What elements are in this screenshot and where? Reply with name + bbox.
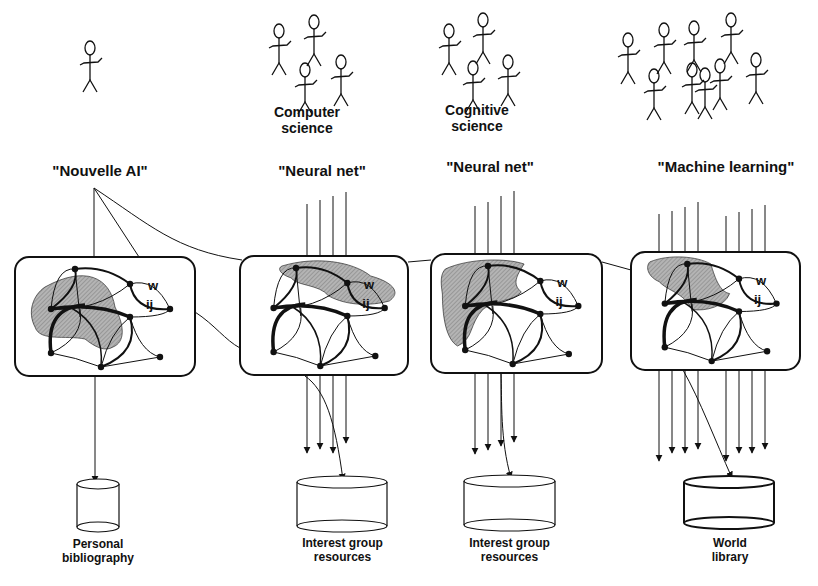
community-label-line1: Computer	[262, 104, 352, 120]
store-label-line1: World	[690, 536, 770, 550]
weight-label-w: w	[755, 273, 767, 288]
curved-arrow-to-store	[305, 376, 343, 480]
network-node	[344, 280, 350, 286]
figure-arms	[654, 40, 676, 47]
weight-label-ij: ij	[362, 296, 369, 311]
weight-label-w: w	[556, 275, 568, 290]
network-node	[462, 347, 468, 353]
store-label-interest-group-1: Interest group resources	[285, 536, 400, 564]
figure-head	[649, 69, 659, 83]
network-node	[317, 363, 323, 369]
figure-legs	[272, 63, 286, 75]
figure-arms	[269, 41, 291, 48]
figure-arms	[618, 50, 640, 57]
figure-head	[309, 15, 319, 29]
figure-arms	[295, 80, 317, 87]
network-node	[344, 313, 350, 319]
network-node	[537, 278, 543, 284]
network-node	[127, 281, 133, 287]
weight-label-w: w	[147, 278, 159, 293]
weight-label-w: w	[363, 277, 375, 292]
network-node	[566, 351, 572, 357]
network-node	[98, 364, 104, 370]
figure-head	[715, 59, 725, 73]
network-node	[709, 358, 715, 364]
figure-arms	[644, 86, 666, 93]
network-node	[167, 306, 173, 312]
network-node	[736, 308, 742, 314]
community-label-line2: science	[262, 120, 352, 136]
figure-legs	[621, 72, 635, 84]
network-node	[575, 303, 581, 309]
figure-head	[478, 13, 488, 27]
column-title-neural-net-cs: "Neural net"	[262, 162, 382, 179]
store-label-line2: resources	[452, 550, 567, 564]
cylinder-body	[297, 482, 387, 532]
figure-head	[468, 61, 478, 75]
network-node	[127, 314, 133, 320]
stick-figure-icon	[618, 33, 640, 84]
network-node	[485, 263, 491, 269]
cylinder-top	[464, 475, 555, 487]
curved-arrow-to-store	[683, 370, 732, 478]
store-label-line2: resources	[285, 550, 400, 564]
figure-head	[689, 21, 699, 35]
network-node	[270, 305, 276, 311]
column-title-neural-net-cogsci: "Neural net"	[430, 158, 550, 175]
cylinder-top	[77, 479, 119, 489]
figure-legs	[724, 52, 738, 64]
stick-figure-icon	[746, 53, 768, 104]
community-label-line2: science	[437, 118, 517, 134]
figure-head	[503, 55, 513, 69]
figure-head	[300, 63, 310, 77]
stick-figure-icon	[721, 13, 743, 64]
figure-arms	[304, 32, 326, 39]
network-node	[270, 349, 276, 355]
network-node	[662, 344, 668, 350]
network-node	[773, 300, 779, 306]
community-label-computer-science: Computer science	[262, 104, 352, 136]
figure-head	[444, 24, 454, 38]
network-node	[736, 276, 742, 282]
cylinder-top	[297, 476, 387, 488]
figure-legs	[698, 107, 712, 119]
column-title-machine-learning: "Machine learning"	[646, 158, 806, 175]
cylinder-body	[684, 482, 774, 529]
network-box-neural-net-cs: wij	[240, 256, 408, 375]
network-box-neural-net-cogsci: wij	[431, 254, 602, 373]
store-label-line1: Personal	[48, 537, 148, 551]
figure-legs	[647, 108, 661, 120]
network-node	[462, 303, 468, 309]
network-node	[684, 261, 690, 267]
network-node	[157, 354, 163, 360]
figure-legs	[713, 98, 727, 110]
stick-figure-icon	[644, 69, 666, 120]
network-node	[48, 350, 54, 356]
figure-legs	[307, 54, 321, 66]
stick-figure-icon	[439, 24, 461, 75]
figure-arms	[498, 72, 520, 79]
store-label-line1: Interest group	[285, 536, 400, 550]
stick-figure-icon	[654, 23, 676, 74]
stick-figure-icon	[695, 68, 717, 119]
link-box3-to-box4	[602, 262, 631, 270]
network-node	[510, 361, 516, 367]
weight-label-ij: ij	[146, 297, 153, 312]
network-node	[48, 306, 54, 312]
store-label-line2: bibliography	[48, 551, 148, 565]
cylinder-body	[464, 481, 555, 531]
database-cylinder-icon	[684, 476, 774, 529]
knowledge-network-diagram: wijwijwijwij	[0, 0, 818, 586]
store-label-world-library: World library	[690, 536, 770, 564]
link-box2-to-box3	[408, 260, 431, 262]
curved-arrow-to-store	[501, 373, 511, 478]
figure-arms	[684, 38, 706, 45]
storage-cylinders	[77, 475, 774, 532]
figure-legs	[476, 52, 490, 64]
figure-head	[700, 68, 710, 82]
figure-head	[659, 23, 669, 37]
caption-fragment	[420, 576, 510, 586]
figure-arms	[463, 78, 485, 85]
database-cylinder-icon	[464, 475, 555, 531]
stick-figure-icon	[269, 24, 291, 75]
